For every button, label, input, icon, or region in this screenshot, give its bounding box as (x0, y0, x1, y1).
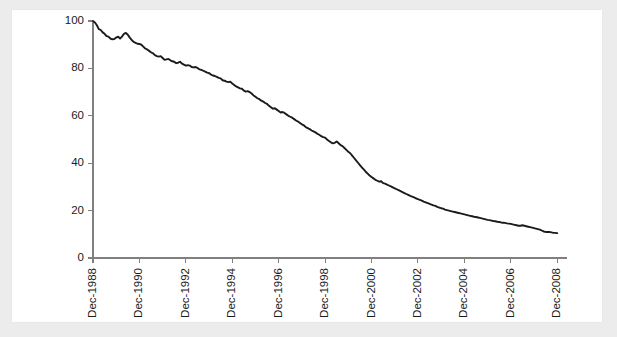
x-tick-label: Dec-2008 (550, 268, 562, 318)
x-tick-label: Dec-1998 (318, 268, 330, 318)
y-tick-label: 20 (71, 204, 84, 216)
y-tick-label: 100 (65, 14, 84, 26)
y-tick-label: 40 (71, 156, 84, 168)
line-chart: 020406080100 Dec-1988Dec-1990Dec-1992Dec… (0, 0, 617, 337)
x-axis: Dec-1988Dec-1990Dec-1992Dec-1994Dec-1996… (86, 258, 567, 318)
y-tick-label: 80 (71, 61, 84, 73)
y-axis: 020406080100 (65, 14, 93, 263)
x-tick-label: Dec-1992 (179, 268, 191, 318)
x-tick-label: Dec-1996 (272, 268, 284, 318)
x-tick-label: Dec-2004 (457, 267, 469, 317)
x-tick-label: Dec-2000 (365, 268, 377, 318)
x-tick-label: Dec-2006 (504, 268, 516, 318)
figure-root: 020406080100 Dec-1988Dec-1990Dec-1992Dec… (0, 0, 617, 337)
y-tick-label: 60 (71, 109, 84, 121)
x-tick-label: Dec-1988 (86, 268, 98, 318)
x-tick-label: Dec-1990 (132, 268, 144, 318)
x-tick-label: Dec-1994 (225, 267, 237, 317)
x-tick-label: Dec-2002 (411, 268, 423, 318)
data-series-survival (93, 21, 557, 233)
y-tick-label: 0 (78, 251, 84, 263)
data-line-survival (93, 21, 557, 233)
